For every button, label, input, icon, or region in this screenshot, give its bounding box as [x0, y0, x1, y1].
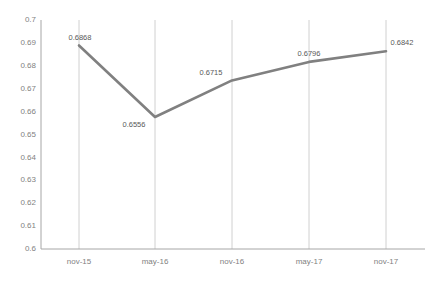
- y-tick-label: 0.62: [10, 198, 36, 208]
- x-tick-label: nov-17: [356, 257, 416, 267]
- data-label: 0.6715: [189, 68, 233, 77]
- y-tick-label: 0.69: [10, 38, 36, 48]
- y-tick-label: 0.7: [10, 15, 36, 25]
- category-gridlines: [79, 20, 386, 249]
- y-tick-label: 0.65: [10, 130, 36, 140]
- y-tick-label: 0.64: [10, 153, 36, 163]
- y-tick-label: 0.61: [10, 221, 36, 231]
- x-tick-label: may-17: [279, 257, 339, 267]
- chart-plot-area: [0, 0, 444, 282]
- line-chart: 0.7 0.69 0.68 0.67 0.66 0.65 0.64 0.63 0…: [0, 0, 444, 282]
- x-tick-label: nov-15: [49, 257, 109, 267]
- y-tick-label: 0.67: [10, 84, 36, 94]
- x-tick-label: may-16: [125, 257, 185, 267]
- data-label: 0.6556: [112, 120, 156, 129]
- data-label: 0.6796: [287, 49, 331, 58]
- data-label: 0.6842: [380, 38, 424, 47]
- y-tick-label: 0.63: [10, 175, 36, 185]
- x-tick-label: nov-16: [202, 257, 262, 267]
- data-label: 0.6868: [58, 33, 102, 42]
- y-tick-label: 0.66: [10, 107, 36, 117]
- y-tick-label: 0.68: [10, 61, 36, 71]
- y-tick-label: 0.6: [10, 244, 36, 254]
